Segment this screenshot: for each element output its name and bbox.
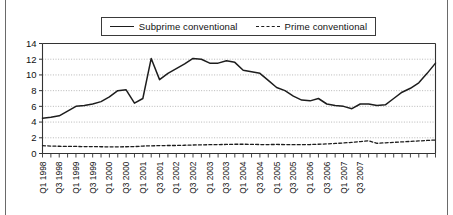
- x-tick-label: Q1 2000: [104, 161, 114, 193]
- chart-axes: [43, 44, 436, 154]
- x-tick-label: Q3 1999: [88, 161, 98, 193]
- x-tick-label: Q1 2006: [305, 161, 315, 193]
- y-tick-label: 6: [31, 101, 36, 112]
- chart-figure: Subprime conventional Prime conventional…: [0, 0, 453, 215]
- x-tick-label: Q1 1998: [38, 161, 48, 193]
- chart-y-axis-ticks: 02468101214: [26, 38, 43, 159]
- x-tick-label: Q3 2004: [255, 161, 265, 193]
- y-tick-label: 12: [26, 54, 37, 65]
- chart-series-lines: [43, 58, 436, 146]
- x-tick-label: Q1 2001: [138, 161, 148, 193]
- chart-x-axis-labels: Q1 1998Q3 1998Q1 1999Q3 1999Q1 2000Q3 20…: [38, 161, 366, 193]
- chart-gridlines: [43, 44, 436, 154]
- x-tick-label: Q1 2005: [272, 161, 282, 193]
- series-line-subprime-conventional: [43, 58, 436, 118]
- y-tick-label: 8: [31, 85, 36, 96]
- chart-plot-area: 02468101214 Q1 1998Q3 1998Q1 1999Q3 1999…: [0, 0, 453, 215]
- y-tick-label: 0: [31, 148, 36, 159]
- x-tick-label: Q1 2004: [238, 161, 248, 193]
- y-tick-label: 10: [26, 69, 37, 80]
- x-tick-label: Q3 2003: [221, 161, 231, 193]
- x-tick-label: Q1 1999: [71, 161, 81, 193]
- chart-x-axis-ticks: [43, 154, 436, 158]
- x-tick-label: Q1 2003: [205, 161, 215, 193]
- x-tick-label: Q3 2001: [155, 161, 165, 193]
- x-tick-label: Q3 1998: [54, 161, 64, 193]
- y-tick-label: 14: [26, 38, 37, 49]
- x-tick-label: Q1 2002: [171, 161, 181, 193]
- x-tick-label: Q3 2000: [121, 161, 131, 193]
- x-tick-label: Q3 2006: [322, 161, 332, 193]
- x-tick-label: Q3 2007: [355, 161, 365, 193]
- y-tick-label: 4: [31, 116, 36, 127]
- x-tick-label: Q3 2005: [288, 161, 298, 193]
- x-tick-label: Q3 2002: [188, 161, 198, 193]
- series-line-prime-conventional: [43, 140, 436, 147]
- x-tick-label: Q1 2007: [339, 161, 349, 193]
- y-tick-label: 2: [31, 132, 36, 143]
